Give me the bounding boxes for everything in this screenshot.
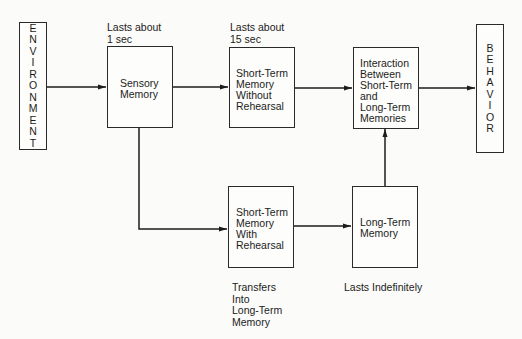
environment-letter: T [30, 138, 36, 150]
sensory-memory-label: Sensory Memory [120, 78, 159, 100]
ltm-duration-note: Lasts Indefinitely [344, 282, 422, 294]
stm-with-rehearsal-box: Short-Term Memory With Rehearsal [228, 186, 294, 268]
note-line: Memory [232, 317, 282, 329]
long-term-memory-box: Long-Term Memory [352, 186, 418, 268]
note-line: 15 sec [230, 34, 284, 46]
note-line: Transfers [232, 282, 282, 294]
environment-box: E N V I R O N M E N T [19, 22, 47, 150]
stm-duration-note: Lasts about 15 sec [230, 22, 284, 45]
behavior-letter: R [486, 123, 494, 135]
stm-with-rehearsal-label: Short-Term Memory With Rehearsal [236, 207, 288, 251]
interaction-box: Interaction Between Short-Term and Long-… [353, 47, 419, 129]
sensory-duration-note: Lasts about 1 sec [107, 22, 161, 45]
note-line: Lasts about [230, 22, 284, 34]
label-line: Memories [360, 113, 412, 124]
long-term-memory-label: Long-Term Memory [360, 217, 410, 239]
behavior-letter: E [486, 54, 493, 66]
note-line: Lasts Indefinitely [344, 282, 422, 294]
interaction-label: Interaction Between Short-Term and Long-… [360, 58, 412, 124]
stm-without-rehearsal-label: Short-Term Memory Without Rehearsal [236, 68, 288, 112]
label-line: Rehearsal [236, 101, 288, 112]
stm-without-rehearsal-box: Short-Term Memory Without Rehearsal [229, 47, 295, 128]
note-line: Long-Term [232, 305, 282, 317]
sensory-memory-box: Sensory Memory [107, 46, 173, 128]
label-line: Memory [120, 89, 159, 100]
behavior-letter: A [486, 77, 493, 89]
label-line: Memory [360, 228, 410, 239]
transfer-note: Transfers Into Long-Term Memory [232, 282, 282, 328]
note-line: Lasts about [107, 22, 161, 34]
behavior-box: B E H A V I O R [476, 24, 504, 153]
label-line: Rehearsal [236, 240, 288, 251]
behavior-letter: I [489, 100, 492, 112]
arrow-sensory-to-stm-with [139, 127, 227, 229]
note-line: 1 sec [107, 34, 161, 46]
